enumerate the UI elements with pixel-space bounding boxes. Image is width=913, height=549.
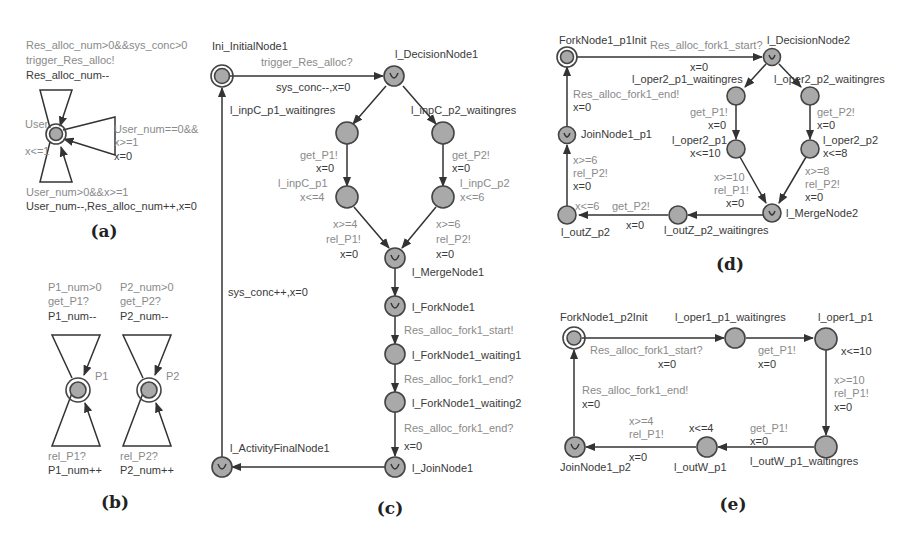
b-p2-rel-sync: rel_P2? — [120, 450, 158, 462]
c-node-decision — [384, 66, 404, 86]
panel-e: ForkNode1_p2Init l_oper1_p1_waitingres l… — [560, 311, 873, 514]
c-node-p1 — [336, 186, 358, 208]
panel-c: Ini_InitialNode1 l_DecisionNode1 trigger… — [211, 40, 521, 518]
b-p2-guard: P2_num>0 — [120, 281, 174, 293]
d-start-update: x=0 — [690, 61, 708, 73]
e-inv-out: x<=4 — [689, 422, 713, 434]
d-end-sync: Res_alloc_fork1_end! — [573, 88, 679, 100]
b-p2-get-sync: get_P2? — [120, 295, 161, 307]
d-node-join — [559, 127, 576, 144]
e-rel-guard: x>=10 — [834, 374, 865, 386]
c-rel-p2-guard: x>=6 — [436, 218, 460, 230]
d-out-get: get_P2! — [612, 200, 650, 212]
c-label-initial: Ini_InitialNode1 — [212, 40, 288, 52]
d-node-merge — [763, 204, 781, 222]
a-user-invariant: x<=1 — [25, 145, 49, 157]
e-label-out: l_outW_p1 — [674, 461, 727, 473]
b-p2-label: P2 — [166, 370, 179, 382]
c-caption: (c) — [377, 498, 403, 518]
c-rel-p2-update: x=0 — [436, 248, 454, 260]
e-out-rel-update: x=0 — [629, 451, 647, 463]
d-edge-p2-merge — [779, 157, 806, 203]
e-label-p1: l_oper1_p1 — [818, 311, 873, 323]
a-user-location — [50, 128, 63, 141]
b-p2-get-update: P2_num-- — [120, 310, 169, 322]
e-get-p1-update: x=0 — [758, 358, 776, 370]
b-p1-get-edge — [52, 335, 100, 378]
b-caption: (b) — [101, 492, 129, 512]
c-get-p1: get_P1! — [300, 149, 338, 161]
b-p1-rel-sync: rel_P1? — [48, 450, 86, 462]
c-node-join — [385, 457, 405, 477]
c-node-p2 — [432, 186, 454, 208]
c-label-final: l_ActivityFinalNode1 — [230, 442, 330, 454]
d-out-rel-sync: rel_P2! — [573, 167, 608, 179]
c-node-fork-w1 — [385, 344, 405, 364]
c-fork-end2: Res_alloc_fork1_end? — [404, 422, 513, 434]
c-label-decision: l_DecisionNode1 — [395, 48, 478, 60]
a-user-label: User — [25, 118, 49, 130]
d-label-decision: l_DecisionNode2 — [767, 34, 850, 46]
c-rel-p1-update: x=0 — [340, 248, 358, 260]
d-node-out — [558, 206, 576, 224]
d-label-outwait: l_outZ_p2_waitingres — [664, 224, 769, 236]
d-caption: (d) — [716, 254, 744, 274]
b-p1-rel-update: P1_num++ — [48, 464, 102, 476]
d-get-p1-update: x=0 — [708, 119, 726, 131]
c-join-update: x=0 — [404, 440, 422, 452]
c-label-p2: l_inpC_p2 — [460, 177, 510, 189]
c-label-fork-w1: l_ForkNode1_waiting1 — [412, 349, 521, 361]
e-out-get-update: x=0 — [750, 435, 768, 447]
e-rel-update: x=0 — [834, 401, 852, 413]
d-out-get-update: x=0 — [626, 219, 644, 231]
b-p1-guard: P1_num>0 — [48, 281, 102, 293]
d-node-p2 — [801, 140, 819, 158]
c-node-final — [212, 457, 232, 477]
a-right-guard2: x>=1 — [114, 136, 138, 148]
c-init-sync: trigger_Res_alloc? — [261, 56, 353, 68]
e-end-update: x=0 — [582, 398, 600, 410]
e-rel-sync: rel_P1! — [834, 387, 869, 399]
d-inv-out: x<=6 — [575, 200, 599, 212]
e-out-get: get_P1! — [750, 422, 788, 434]
a-top-update: Res_alloc_num-- — [26, 69, 109, 81]
a-right-guard1: User_num==0&& — [114, 123, 199, 135]
d-label-p2: l_oper2_p2 — [823, 134, 878, 146]
e-out-rel-sync: rel_P1! — [629, 428, 664, 440]
d-out-rel-update: x=0 — [573, 180, 591, 192]
c-init-update: sys_conc--,x=0 — [276, 81, 350, 93]
c-back-update: sys_conc++,x=0 — [228, 286, 308, 298]
d-rel-p2-sync: rel_P2! — [805, 178, 840, 190]
a-right-update: x=0 — [114, 150, 132, 162]
c-get-p1-update: x=0 — [316, 162, 334, 174]
e-get-p1: get_P1! — [758, 344, 796, 356]
c-label-fork: l_ForkNode1 — [412, 301, 475, 313]
d-node-outwait — [669, 206, 687, 224]
d-node-init — [561, 51, 574, 64]
e-end-sync: Res_alloc_fork1_end! — [582, 384, 688, 396]
e-label-join: JoinNode1_p2 — [560, 461, 631, 473]
e-label-p1wait: l_oper1_p1_waitingres — [675, 311, 786, 323]
c-fork-end1: Res_alloc_fork1_end? — [404, 373, 513, 385]
a-caption: (a) — [90, 221, 117, 241]
c-label-fork-w2: l_ForkNode1_waiting2 — [412, 397, 521, 409]
a-right-loop-edge — [63, 117, 115, 155]
c-fork-start: Res_alloc_fork1_start! — [404, 324, 513, 336]
d-rel-p2-guard: x>=8 — [805, 165, 829, 177]
d-rel-p2-update: x=0 — [805, 191, 823, 203]
e-node-init — [567, 331, 581, 345]
e-node-p1wait — [725, 328, 745, 348]
b-p2-get-edge — [123, 335, 171, 378]
c-get-p2-update: x=0 — [452, 162, 470, 174]
c-rel-p2-sync: rel_P2! — [436, 233, 471, 245]
d-label-init: ForkNode1_p1Init — [559, 34, 646, 46]
panel-b: P1_num>0 get_P1? P1_num-- P2_num>0 get_P… — [48, 281, 179, 512]
c-rel-p1-sync: rel_P1! — [326, 233, 361, 245]
e-label-init: ForkNode1_p2Init — [560, 311, 647, 323]
d-rel-p1-update: x=0 — [726, 197, 744, 209]
d-label-p2wait: l_oper2_p2_waitingres — [774, 73, 885, 85]
a-top-sync: trigger_Res_alloc! — [26, 54, 115, 66]
e-caption: (e) — [720, 494, 747, 514]
c-inv-p1: x<=4 — [300, 191, 324, 203]
c-edge-decision-p1wait — [353, 86, 386, 124]
